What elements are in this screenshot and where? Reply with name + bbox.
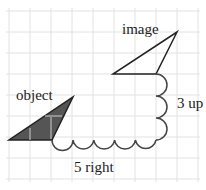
up-arrow-loops [156,74,167,140]
horizontal-translation-label: 5 right [74,160,114,175]
right-arrow-loops [52,140,156,151]
object-triangle [9,97,73,140]
object-label: object [16,88,53,103]
vertical-translation-label: 3 up [177,96,203,111]
image-label: image [122,22,159,37]
